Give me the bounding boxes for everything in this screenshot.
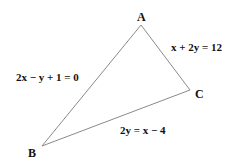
side-ac: [141, 25, 190, 90]
vertex-label-c: C: [195, 87, 204, 101]
side-bc: [42, 90, 190, 146]
equation-bc: 2y = x − 4: [120, 124, 166, 136]
triangle-diagram: A B C 2x − y + 1 = 0 x + 2y = 12 2y = x …: [0, 0, 239, 165]
vertex-label-b: B: [28, 146, 36, 160]
vertex-label-a: A: [137, 10, 146, 24]
diagram-svg: A B C 2x − y + 1 = 0 x + 2y = 12 2y = x …: [0, 0, 239, 165]
equation-ab: 2x − y + 1 = 0: [16, 71, 79, 83]
equation-ac: x + 2y = 12: [171, 41, 223, 53]
